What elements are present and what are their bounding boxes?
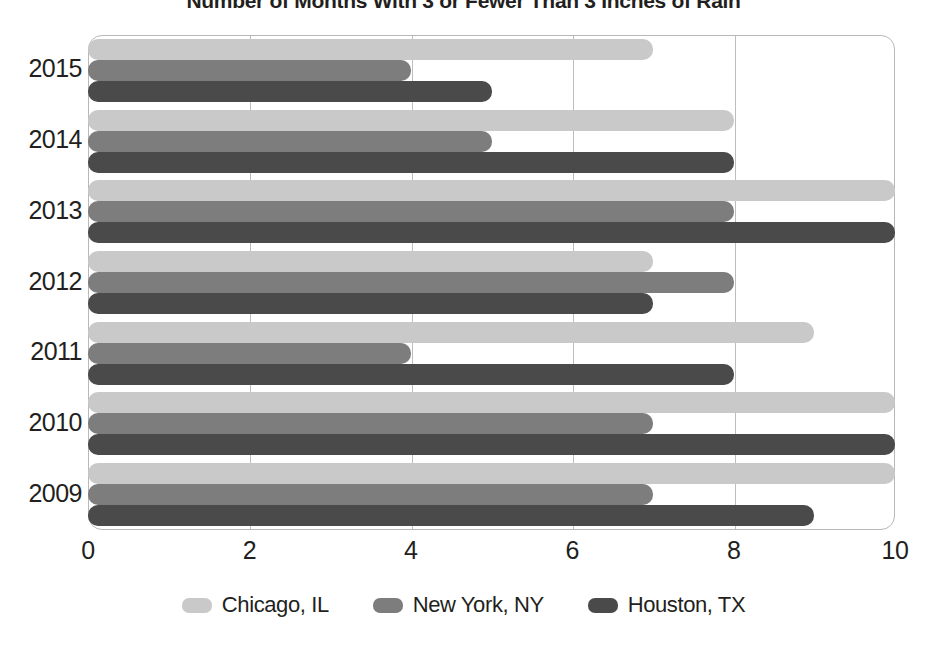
bar-2013-houston-tx	[88, 222, 895, 243]
y-tick-label-2011: 2011	[4, 337, 82, 366]
bar-2014-chicago-il	[88, 110, 734, 131]
bar-group-2009	[88, 463, 895, 526]
y-axis: 2015201420132012201120102009	[0, 35, 82, 530]
bar-group-2014	[88, 110, 895, 173]
bar-2012-new-york-ny	[88, 272, 734, 293]
bar-2011-new-york-ny	[88, 343, 411, 364]
bar-2013-chicago-il	[88, 180, 895, 201]
bar-2011-chicago-il	[88, 322, 814, 343]
bar-2015-new-york-ny	[88, 60, 411, 81]
y-tick-label-2012: 2012	[4, 267, 82, 296]
x-tick-label-4: 4	[404, 536, 417, 565]
bar-2014-houston-tx	[88, 152, 734, 173]
bar-2010-houston-tx	[88, 434, 895, 455]
bar-2009-new-york-ny	[88, 484, 653, 505]
bar-group-2013	[88, 180, 895, 243]
legend-item-chicago-il[interactable]: Chicago, IL	[182, 592, 329, 618]
legend-item-houston-tx[interactable]: Houston, TX	[588, 592, 745, 618]
chart-legend: Chicago, ILNew York, NYHouston, TX	[0, 592, 927, 618]
bar-2009-houston-tx	[88, 505, 814, 526]
bar-2010-new-york-ny	[88, 413, 653, 434]
bar-2014-new-york-ny	[88, 131, 492, 152]
x-tick-label-6: 6	[565, 536, 578, 565]
x-tick-label-2: 2	[243, 536, 256, 565]
legend-label-new-york-ny: New York, NY	[413, 592, 544, 618]
bar-group-2011	[88, 322, 895, 385]
x-tick-label-0: 0	[81, 536, 94, 565]
bar-2010-chicago-il	[88, 392, 895, 413]
y-tick-label-2014: 2014	[4, 125, 82, 154]
bar-2015-houston-tx	[88, 81, 492, 102]
bar-group-2010	[88, 392, 895, 455]
bar-2011-houston-tx	[88, 364, 734, 385]
legend-swatch-chicago-il	[182, 598, 212, 613]
y-tick-label-2010: 2010	[4, 408, 82, 437]
legend-label-houston-tx: Houston, TX	[628, 592, 745, 618]
legend-item-new-york-ny[interactable]: New York, NY	[373, 592, 544, 618]
x-axis: 0246810	[88, 536, 895, 576]
chart-title: Number of Months With 3 or Fewer Than 3 …	[0, 0, 927, 13]
bar-2009-chicago-il	[88, 463, 895, 484]
legend-swatch-new-york-ny	[373, 598, 403, 613]
bar-2012-houston-tx	[88, 293, 653, 314]
bar-2013-new-york-ny	[88, 201, 734, 222]
bar-2015-chicago-il	[88, 39, 653, 60]
legend-label-chicago-il: Chicago, IL	[222, 592, 329, 618]
x-tick-label-8: 8	[727, 536, 740, 565]
y-tick-label-2015: 2015	[4, 54, 82, 83]
bar-group-2015	[88, 39, 895, 102]
bar-2012-chicago-il	[88, 251, 653, 272]
bars-layer	[88, 35, 895, 530]
legend-swatch-houston-tx	[588, 598, 618, 613]
y-tick-label-2013: 2013	[4, 196, 82, 225]
bar-group-2012	[88, 251, 895, 314]
x-tick-label-10: 10	[882, 536, 909, 565]
y-tick-label-2009: 2009	[4, 479, 82, 508]
bar-chart: Number of Months With 3 or Fewer Than 3 …	[0, 0, 927, 647]
